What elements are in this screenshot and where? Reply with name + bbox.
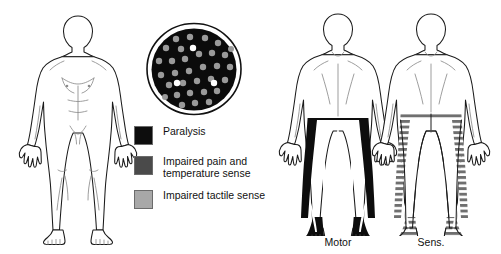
figure-canvas: Paralysis Impaired pain and temperature … — [0, 0, 501, 254]
caption-sensory: Sens. — [391, 236, 471, 248]
body-figure-sensory — [371, 8, 491, 236]
legend-item-pain-temperature: Impaired pain and temperature sense — [134, 156, 265, 179]
black-square-swatch — [134, 126, 153, 145]
legend-label-pain-temperature: Impaired pain and temperature sense — [163, 155, 251, 179]
legend-item-paralysis: Paralysis — [134, 126, 265, 145]
legend-label-paralysis: Paralysis — [163, 125, 206, 137]
light-gray-square-swatch — [134, 190, 153, 209]
dark-gray-square-swatch — [134, 156, 153, 175]
legend-item-tactile: Impaired tactile sense — [134, 190, 265, 209]
spinal-cord-cross-section — [145, 21, 243, 117]
legend-label-tactile: Impaired tactile sense — [163, 189, 265, 201]
caption-motor: Motor — [298, 236, 378, 248]
legend: Paralysis Impaired pain and temperature … — [134, 126, 265, 220]
body-figure-anterior — [18, 8, 138, 246]
